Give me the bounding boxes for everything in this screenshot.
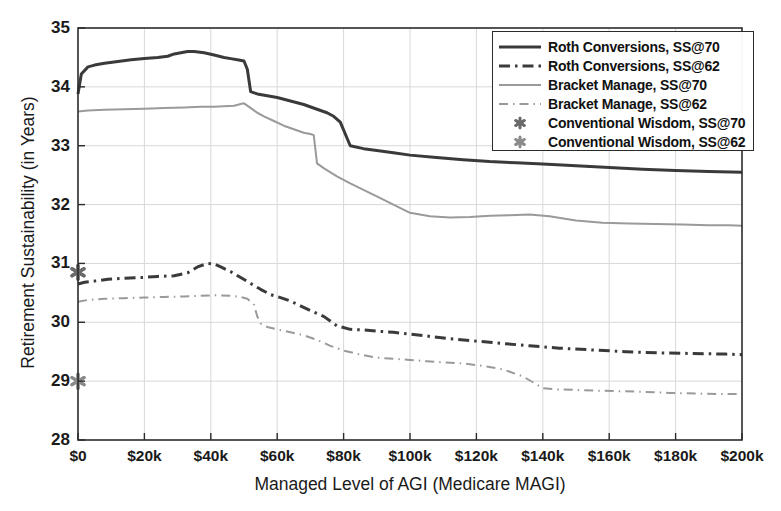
x-axis-tick-label: $160k <box>588 447 631 465</box>
legend-line-icon <box>498 97 542 111</box>
legend-line-icon <box>498 40 542 54</box>
legend-label: Conventional Wisdom, SS@70 <box>548 115 745 131</box>
legend-label: Bracket Manage, SS@70 <box>548 77 707 93</box>
legend-line-icon <box>498 59 542 73</box>
x-axis-tick-label: $0 <box>69 447 86 465</box>
legend-item[interactable]: Conventional Wisdom, SS@62 <box>493 132 753 151</box>
x-axis-tick-label: $140k <box>521 447 564 465</box>
legend-label: Roth Conversions, SS@70 <box>548 39 720 55</box>
x-axis-tick-label: $40k <box>194 447 228 465</box>
chart-legend: Roth Conversions, SS@70Roth Conversions,… <box>492 31 754 151</box>
y-axis-tick-label: 28 <box>30 430 70 450</box>
legend-item[interactable]: Conventional Wisdom, SS@70 <box>493 113 753 132</box>
legend-line-icon <box>498 78 542 92</box>
y-axis-label: Retirement Sustainability (in Years) <box>18 33 39 433</box>
legend-label: Bracket Manage, SS@62 <box>548 96 707 112</box>
x-axis-tick-label: $100k <box>388 447 431 465</box>
x-axis-tick-label: $80k <box>326 447 360 465</box>
legend-label: Roth Conversions, SS@62 <box>548 58 720 74</box>
legend-asterisk-icon <box>498 135 542 149</box>
legend-item[interactable]: Bracket Manage, SS@70 <box>493 75 753 94</box>
x-axis-tick-label: $60k <box>260 447 294 465</box>
x-axis-label: Managed Level of AGI (Medicare MAGI) <box>78 474 742 495</box>
retirement-sustainability-chart: 2829303132333435 Retirement Sustainabili… <box>0 0 781 511</box>
legend-asterisk-icon <box>498 116 542 130</box>
x-axis-tick-label: $120k <box>455 447 498 465</box>
x-axis-tick-label: $20k <box>127 447 161 465</box>
legend-item[interactable]: Roth Conversions, SS@70 <box>493 37 753 56</box>
x-axis-tick-label: $180k <box>654 447 697 465</box>
legend-item[interactable]: Roth Conversions, SS@62 <box>493 56 753 75</box>
legend-item[interactable]: Bracket Manage, SS@62 <box>493 94 753 113</box>
x-axis-tick-label: $200k <box>720 447 763 465</box>
legend-label: Conventional Wisdom, SS@62 <box>548 134 745 150</box>
